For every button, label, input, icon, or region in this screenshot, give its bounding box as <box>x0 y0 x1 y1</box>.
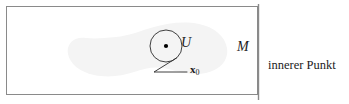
interior-point-dot <box>164 44 168 48</box>
point-subscript: 0 <box>196 68 200 77</box>
set-region-label: M <box>237 40 249 54</box>
neighborhood-label: U <box>181 36 191 50</box>
figure-caption: innerer Punkt <box>268 58 336 73</box>
interior-point-label: x0 <box>190 64 200 77</box>
figure-graphic <box>0 0 349 104</box>
figure-container: U M x0 innerer Punkt <box>0 0 349 104</box>
